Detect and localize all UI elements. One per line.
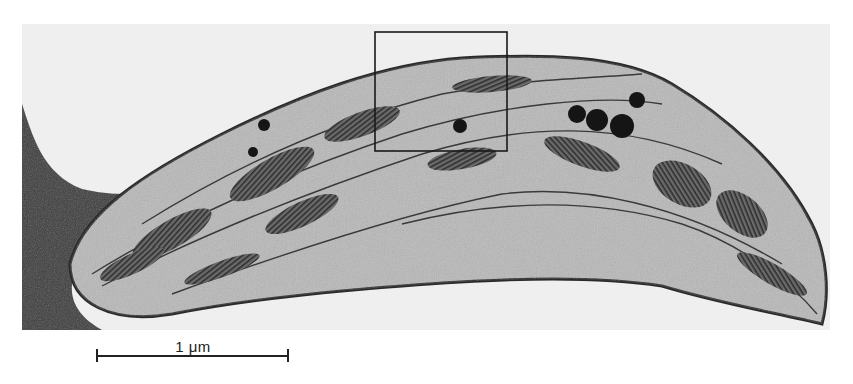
electron-micrograph	[22, 24, 830, 330]
scale-bar: 1 μm	[96, 338, 290, 368]
scale-bar-label: 1 μm	[96, 338, 290, 355]
scale-bar-tick-right	[287, 349, 289, 362]
scale-bar-tick-left	[96, 349, 98, 362]
scale-bar-line	[96, 355, 288, 357]
